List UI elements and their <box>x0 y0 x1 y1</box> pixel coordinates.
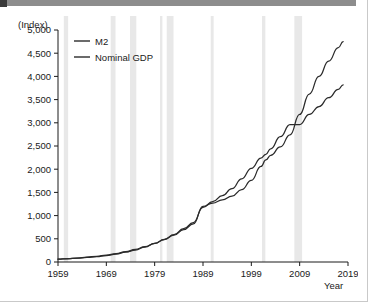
y-axis-tick-label: 3,500 <box>27 94 51 105</box>
y-axis-tick-label: 2,000 <box>27 164 51 175</box>
window-top-bar <box>0 0 356 6</box>
recession-band <box>167 16 174 262</box>
y-axis-unit-label: (Index) <box>18 19 48 30</box>
x-axis-tick-label: 1979 <box>144 268 165 279</box>
legend-label-nominal-gdp: Nominal GDP <box>95 52 153 63</box>
x-axis-tick-label: 1959 <box>47 268 68 279</box>
window-corner-marker <box>0 0 7 7</box>
y-axis-tick-label: 3,000 <box>27 117 51 128</box>
x-axis-tick-label: 1989 <box>192 268 213 279</box>
y-axis-tick-label: 500 <box>35 233 51 244</box>
x-axis-label-group: 1959196919791989199920092019 <box>47 268 358 279</box>
recession-band <box>64 16 68 262</box>
recession-band <box>294 16 302 262</box>
y-axis-tick-label: 4,500 <box>27 48 51 59</box>
x-axis-tick-label: 1969 <box>96 268 117 279</box>
chart-figure: 05001,0001,5002,0002,5003,0003,5004,0004… <box>0 8 358 293</box>
y-axis-label-group: 05001,0001,5002,0002,5003,0003,5004,0004… <box>27 24 51 267</box>
y-axis-tick-label: 0 <box>46 256 51 267</box>
recession-band <box>211 16 214 262</box>
recession-band <box>160 16 162 262</box>
legend-label-m2: M2 <box>95 36 108 47</box>
y-axis-tick-group <box>54 30 58 262</box>
screenshot-page: 05001,0001,5002,0002,5003,0003,5004,0004… <box>0 0 368 302</box>
y-axis-tick-label: 1,000 <box>27 210 51 221</box>
x-axis-tick-group <box>58 262 348 266</box>
y-axis-tick-label: 4,000 <box>27 71 51 82</box>
y-axis-tick-label: 1,500 <box>27 187 51 198</box>
x-axis-title: Year <box>324 280 343 291</box>
x-axis-tick-label: 2009 <box>289 268 310 279</box>
y-axis-tick-label: 2,500 <box>27 140 51 151</box>
x-axis-tick-label: 2019 <box>337 268 358 279</box>
x-axis-tick-label: 1999 <box>241 268 262 279</box>
line-chart: 05001,0001,5002,0002,5003,0003,5004,0004… <box>0 8 358 293</box>
recession-band <box>262 16 265 262</box>
